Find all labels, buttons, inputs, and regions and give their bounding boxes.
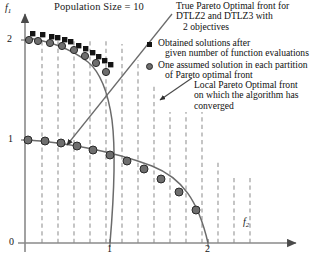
population-size-label: Population Size = 10: [54, 1, 144, 12]
local-front-leader-line: [160, 78, 192, 100]
legend-obtained-line2: given number of function evaluations: [158, 48, 309, 58]
legend-square-icon: [147, 42, 152, 47]
y-axis-tick-2: 2: [7, 33, 12, 44]
y-axis-label-subscript: 1: [8, 7, 12, 15]
x-axis-label: f2: [243, 216, 249, 229]
annotation-local-pareto-front: Local Pareto Optimal front on which the …: [194, 80, 298, 111]
y-axis-tick-0: 0: [9, 236, 14, 247]
legend-circle-icon: [146, 63, 153, 70]
x-axis-tick-1: 1: [107, 243, 112, 254]
true-front-leader-line: [67, 14, 172, 145]
x-axis-tick-2: 2: [205, 243, 210, 254]
legend-assumed-solution: One assumed solution in each partition o…: [158, 60, 307, 81]
legend-true-front-line3: 2 objectives: [176, 22, 289, 32]
y-axis-tick-1: 1: [8, 133, 13, 144]
figure-canvas: Population Size = 10 True Pareto Optimal…: [0, 0, 310, 265]
x-axis-label-subscript: 2: [246, 221, 250, 229]
annotation-local-front-line3: converged: [194, 101, 298, 111]
y-axis-label: f1: [5, 2, 11, 15]
legend-true-pareto-front: True Pareto Optimal front for DTLZ2 and …: [176, 1, 289, 32]
legend-obtained-solutions: Obtained solutions after given number of…: [158, 38, 309, 59]
assumed-solution-markers-lower: [24, 136, 200, 214]
